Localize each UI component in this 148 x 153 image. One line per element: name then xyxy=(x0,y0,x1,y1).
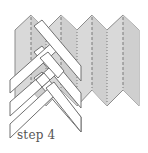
paper-panel-shade xyxy=(92,15,107,106)
step-caption: step 4 xyxy=(17,128,55,142)
paper-panel-shade xyxy=(123,15,139,106)
